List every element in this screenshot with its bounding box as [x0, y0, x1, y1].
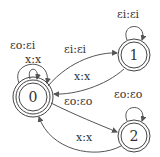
label-edge-2-2: εo:εo	[114, 88, 143, 101]
label-edge-0-2: εo:εo	[64, 95, 93, 108]
label-edge-1-1: εi:εi	[117, 8, 140, 21]
fst-diagram: 0 1 2 εo:εi x:x εi:εi x:x εi:εi εo:εo εo…	[0, 0, 160, 157]
edge-1-1	[126, 27, 143, 41]
label-edge-0-0-outer: εo:εi	[10, 39, 36, 52]
label-edge-1-0: x:x	[74, 70, 91, 83]
state-label-0: 0	[29, 89, 38, 105]
edge-2-2	[126, 108, 143, 122]
label-edge-0-1: εi:εi	[64, 43, 87, 56]
state-label-1: 1	[130, 47, 139, 63]
label-edge-2-0: x:x	[76, 131, 93, 144]
state-0: 0	[13, 77, 53, 117]
state-label-2: 2	[130, 128, 139, 144]
state-2: 2	[118, 120, 150, 152]
label-edge-0-0-inner: x:x	[25, 53, 42, 66]
state-1: 1	[118, 39, 150, 71]
